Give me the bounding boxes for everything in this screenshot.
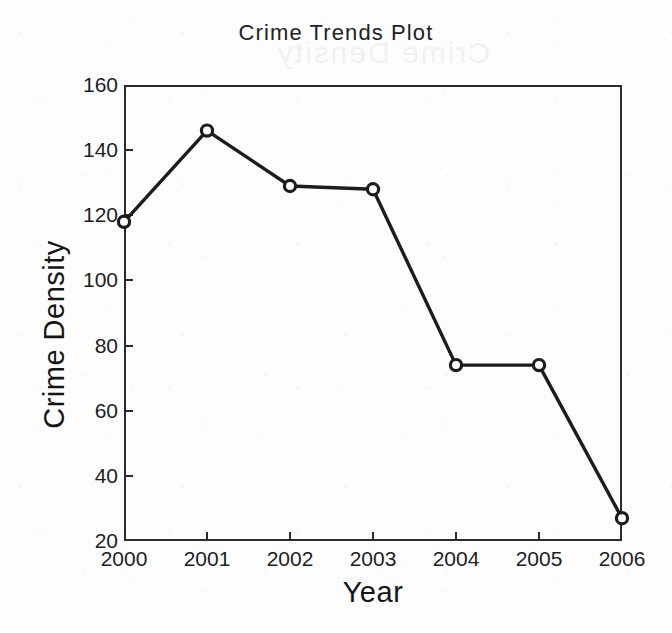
crime-density-markers [118, 125, 627, 524]
x-axis-tick-label: 2001 [167, 547, 247, 571]
x-axis-tick-label: 2003 [333, 547, 413, 571]
y-axis-tick-label: 60 [58, 399, 118, 423]
data-point-marker [118, 216, 129, 227]
x-axis-tick-label: 2006 [582, 547, 662, 571]
x-axis-tick-label: 2004 [416, 547, 496, 571]
y-axis-tick-label: 160 [58, 73, 118, 97]
data-point-marker [284, 180, 295, 191]
data-point-marker [367, 184, 378, 195]
x-axis-tick-label: 2000 [84, 547, 164, 571]
y-axis-tick-label: 40 [58, 464, 118, 488]
x-axis-tick-labels: 2000200120022003200420052006 [124, 547, 622, 575]
y-axis-tick-label: 80 [58, 334, 118, 358]
data-point-marker [450, 360, 461, 371]
data-point-marker [616, 513, 627, 524]
y-axis-tick-label: 120 [58, 203, 118, 227]
y-axis-tick-labels: 20406080100120140160 [54, 85, 118, 541]
chart-title: Crime Trends Plot [0, 20, 672, 46]
x-axis-tick-label: 2005 [499, 547, 579, 571]
chart-figure: Crime Trends Plot Crime Density Year 204… [0, 0, 672, 633]
x-axis-tick-label: 2002 [250, 547, 330, 571]
y-axis-tick-label: 100 [58, 268, 118, 292]
data-point-marker [201, 125, 212, 136]
y-axis-tick-label: 140 [58, 138, 118, 162]
data-series-svg [124, 85, 622, 541]
plot-area [124, 85, 622, 541]
x-axis-title: Year [124, 576, 622, 609]
data-point-marker [533, 360, 544, 371]
